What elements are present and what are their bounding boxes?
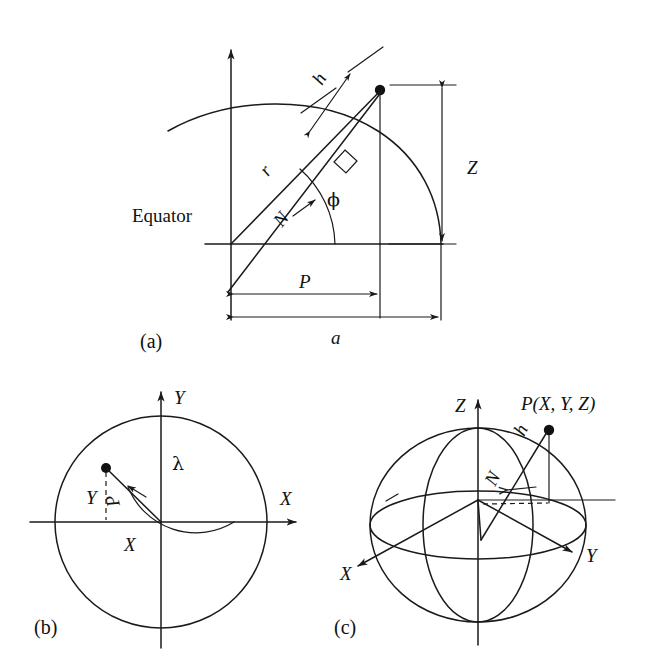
panel-b-label-longitude: λ [172, 452, 184, 474]
panel-b-caption: (b) [34, 616, 57, 639]
panel-a-label-radius: r [255, 160, 276, 179]
panel-a-caption: (a) [140, 330, 162, 353]
panel-b-longitude-arc [128, 487, 234, 533]
panel-b-label-axis-x: X [279, 488, 293, 509]
panel-c-label-prime-vertical: N [480, 467, 506, 490]
panel-a-label-z: Z [467, 157, 478, 178]
panel-b-label-radius-p: P [100, 492, 124, 510]
panel-a-label-p: P [298, 271, 311, 292]
panel-b: Y X Y X P λ (b) [30, 387, 296, 648]
panel-c-angle-pointer [506, 487, 536, 490]
panel-c-label-axis-x: X [339, 563, 353, 584]
panel-c-normal-line [481, 432, 547, 540]
panel-a-label-height: h [308, 69, 331, 88]
panel-c-projection-line [483, 503, 548, 504]
panel-a-label-equator: Equator [132, 205, 193, 226]
panel-a: Equator h r N ϕ Z P a (a) [132, 47, 478, 353]
panel-a-normal-line [228, 91, 382, 292]
panel-a-right-angle-marker [334, 150, 357, 173]
panel-a-h-tick-upper [348, 47, 383, 72]
panel-c-axis-x [358, 500, 478, 566]
panel-c-label-axis-z: Z [455, 395, 466, 416]
panel-a-label-semi-major-axis: a [331, 327, 341, 348]
panel-a-label-latitude: ϕ [327, 188, 340, 210]
figure-geodetic-coordinates: Equator h r N ϕ Z P a (a) [0, 0, 645, 669]
panel-a-radius-line [231, 90, 381, 244]
panel-b-label-axis-y: Y [174, 387, 187, 408]
panel-b-label-coord-y: Y [86, 487, 99, 508]
panel-c-label-height: h [509, 421, 532, 439]
panel-b-label-coord-x: X [123, 534, 137, 555]
panel-c-label-point-p: P(X, Y, Z) [520, 393, 595, 415]
panel-c-left-tick [386, 494, 398, 501]
panel-c: Z X Y P(X, Y, Z) h N (c) [334, 393, 615, 645]
figure-canvas: Equator h r N ϕ Z P a (a) [0, 0, 645, 669]
panel-c-label-axis-y: Y [586, 545, 599, 566]
panel-c-caption: (c) [334, 616, 356, 639]
panel-c-axis-y [478, 500, 572, 552]
